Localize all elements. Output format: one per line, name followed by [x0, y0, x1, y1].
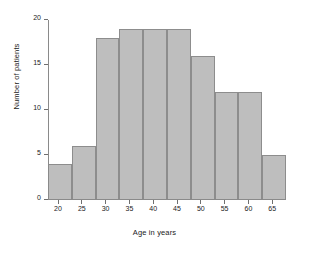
x-tick-label: 50: [197, 205, 205, 212]
histogram-bar: [143, 29, 167, 200]
histogram-bar: [72, 146, 96, 200]
histogram-bar: [238, 92, 262, 200]
x-tick-label: 25: [78, 205, 86, 212]
x-tick-label: 60: [245, 205, 253, 212]
y-axis-title: Number of patients: [12, 17, 21, 137]
histogram-bar: [48, 164, 72, 200]
y-tick-label: 15: [33, 59, 41, 66]
x-tick: 35: [129, 200, 130, 204]
x-axis-title: Age in years: [0, 228, 309, 237]
y-tick-label: 0: [37, 194, 41, 201]
x-axis-line: [48, 199, 286, 200]
x-tick: 45: [177, 200, 178, 204]
histogram-bar: [119, 29, 143, 200]
x-tick-label: 45: [173, 205, 181, 212]
x-tick-label: 30: [102, 205, 110, 212]
y-tick-label: 10: [33, 104, 41, 111]
x-tick: 55: [224, 200, 225, 204]
x-tick: 65: [272, 200, 273, 204]
histogram-bar: [191, 56, 215, 200]
histogram-figure: Number of patients 05101520 202530354045…: [0, 0, 309, 255]
x-tick: 40: [153, 200, 154, 204]
x-tick-label: 40: [149, 205, 157, 212]
x-tick-label: 35: [126, 205, 134, 212]
y-tick-label: 5: [37, 149, 41, 156]
histogram-bar: [96, 38, 120, 200]
x-tick-label: 20: [54, 205, 62, 212]
x-tick: 25: [81, 200, 82, 204]
y-tick-label: 20: [33, 14, 41, 21]
histogram-bar: [215, 92, 239, 200]
x-tick-label: 55: [221, 205, 229, 212]
x-tick: 60: [248, 200, 249, 204]
histogram-bar: [167, 29, 191, 200]
x-tick-label: 65: [268, 205, 276, 212]
x-tick: 50: [200, 200, 201, 204]
x-tick: 20: [58, 200, 59, 204]
y-axis-line: [48, 20, 49, 200]
histogram-bar: [262, 155, 286, 200]
plot-area: 05101520 20253035404550556065: [48, 20, 286, 200]
x-tick: 30: [105, 200, 106, 204]
